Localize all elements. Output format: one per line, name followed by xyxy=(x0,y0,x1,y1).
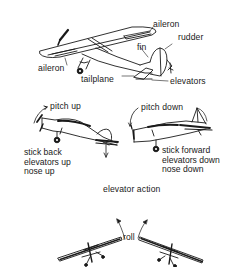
roll-left-airplane-drawing xyxy=(58,219,125,266)
aileron-left-label: aileron xyxy=(38,64,65,73)
pitch-up-description: stick back elevators up nose up xyxy=(24,148,71,177)
aileron-right-label: aileron xyxy=(153,20,180,29)
pitch-down-description: stick forward elevators down nose down xyxy=(162,146,220,175)
pitch-up-title: pitch up xyxy=(50,102,81,111)
pitch-up-line-3: nose up xyxy=(24,167,71,177)
elevator-action-caption: elevator action xyxy=(103,185,160,194)
roll-label: roll xyxy=(123,233,135,242)
pitch-down-line-3: nose down xyxy=(162,165,220,175)
fin-label: fin xyxy=(137,43,146,52)
roll-right-airplane-drawing xyxy=(138,220,203,267)
elevators-label: elevators xyxy=(170,77,206,86)
tailplane-label: tailplane xyxy=(81,75,114,84)
rudder-label: rudder xyxy=(178,33,203,42)
pitch-down-title: pitch down xyxy=(141,103,183,112)
